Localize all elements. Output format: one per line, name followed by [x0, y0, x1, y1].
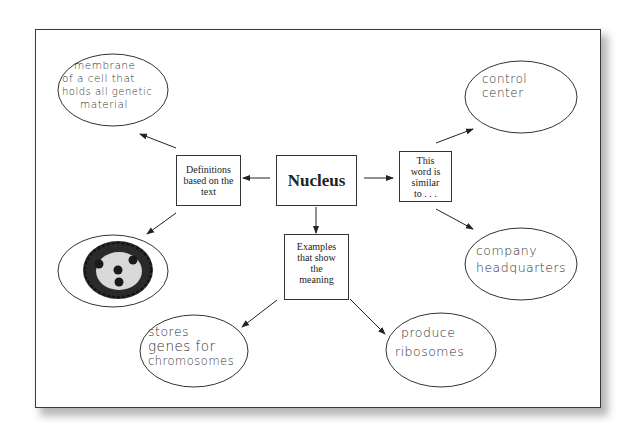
arrow-examples-to-ribosomes	[350, 299, 385, 334]
definitions-line: text	[184, 186, 234, 197]
definitions-line: Definitions	[184, 164, 234, 175]
arrow-definitions-to-text	[140, 134, 176, 148]
handwritten-line: ribosomes	[395, 342, 464, 361]
handwritten-definition: membrane of a cell that holds all geneti…	[62, 59, 172, 111]
arrow-definitions-to-drawing	[147, 213, 176, 234]
handwritten-line: control	[482, 72, 527, 86]
handwritten-line: company	[476, 242, 566, 259]
handwritten-similar-2: company headquarters	[476, 242, 566, 276]
examples-line: Examples	[297, 241, 336, 252]
definitions-line: based on the	[184, 175, 234, 186]
similar-line: to . . .	[411, 188, 441, 199]
handwritten-example-2: produce ribosomes	[395, 323, 464, 361]
handwritten-example-1: stores genes for chromosomes	[148, 324, 234, 369]
nucleus-drawing-icon	[83, 241, 153, 299]
handwritten-line: center	[482, 86, 527, 100]
handwritten-line: genes for	[148, 339, 234, 354]
examples-line: meaning	[297, 274, 336, 285]
nucleus-label: Nucleus	[288, 171, 346, 191]
handwritten-line: material	[62, 98, 172, 111]
handwritten-line: produce	[395, 323, 464, 342]
definitions-box: Definitions based on the text	[176, 155, 241, 206]
examples-line: that show	[297, 252, 336, 263]
handwritten-line: membrane	[62, 59, 172, 72]
similar-box: This word is similar to . . .	[399, 151, 452, 202]
arrow-similar-to-control-center	[436, 129, 473, 143]
handwritten-line: holds all genetic	[62, 85, 172, 98]
similar-line: similar	[411, 177, 441, 188]
handwritten-line: chromosomes	[148, 354, 234, 369]
arrow-examples-to-stores-genes	[242, 300, 277, 327]
handwritten-line: of a cell that	[62, 72, 172, 85]
handwritten-similar-1: control center	[482, 72, 527, 100]
arrow-similar-to-headquarters	[436, 209, 473, 229]
similar-line: This	[411, 155, 441, 166]
nucleus-box: Nucleus	[276, 155, 357, 206]
examples-line: the	[297, 263, 336, 274]
handwritten-line: stores	[148, 324, 234, 339]
similar-line: word is	[411, 166, 441, 177]
examples-box: Examples that show the meaning	[284, 234, 349, 300]
handwritten-line: headquarters	[476, 259, 566, 276]
